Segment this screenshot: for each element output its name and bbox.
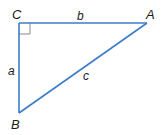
side-label-c: c <box>83 69 89 83</box>
side-label-a: a <box>8 64 15 78</box>
right-triangle-diagram: C A B b a c <box>0 0 162 135</box>
right-angle-marker <box>19 23 30 34</box>
side-c-line <box>19 23 147 113</box>
vertex-label-a: A <box>145 7 155 22</box>
vertex-label-b: B <box>11 117 20 132</box>
vertex-label-c: C <box>12 7 22 22</box>
side-label-b: b <box>77 9 84 23</box>
